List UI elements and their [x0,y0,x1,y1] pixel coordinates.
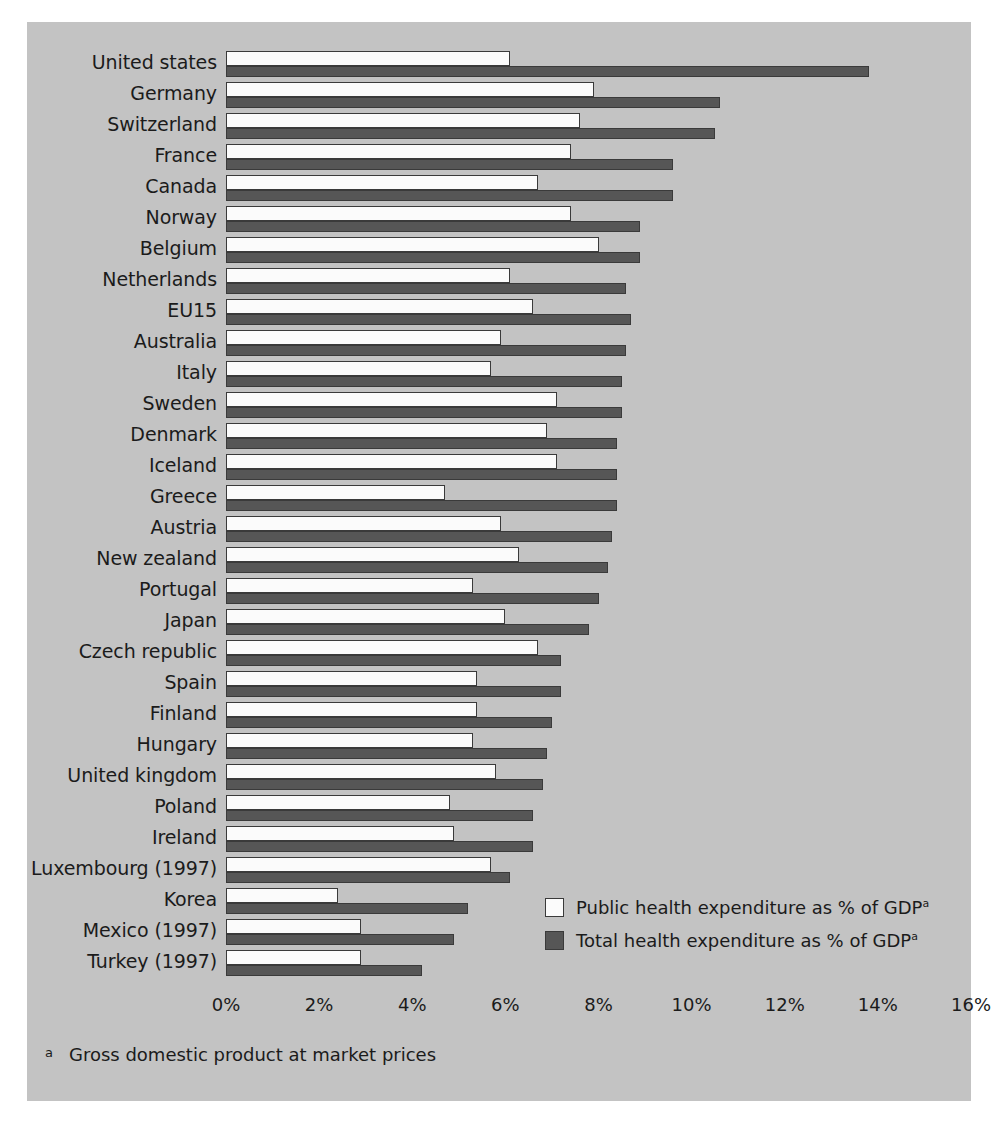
bar-group [226,762,971,793]
bar-row: Canada [27,173,971,204]
figure: United statesGermanySwitzerlandFranceCan… [0,0,992,1132]
bar-group [226,452,971,483]
bar-public-health [226,764,496,779]
bar-group [226,421,971,452]
bar-public-health [226,175,538,190]
category-label: Australia [27,330,217,352]
bar-row: Switzerland [27,111,971,142]
bar-total-health [226,934,454,945]
bar-total-health [226,314,631,325]
bar-row: Denmark [27,421,971,452]
bar-public-health [226,299,533,314]
bar-public-health [226,423,547,438]
category-label: United states [27,51,217,73]
x-axis: 0%2%4%6%8%10%12%14%16% [226,994,971,1024]
bar-group [226,824,971,855]
category-label: Sweden [27,392,217,414]
bar-group [226,545,971,576]
bar-group [226,390,971,421]
bar-public-health [226,51,510,66]
category-label: Luxembourg (1997) [27,857,217,879]
bar-public-health [226,268,510,283]
bar-group [226,793,971,824]
bar-public-health [226,516,501,531]
bar-row: Austria [27,514,971,545]
x-tick-label: 8% [584,994,613,1015]
bar-row: Poland [27,793,971,824]
footnote-text: Gross domestic product at market prices [69,1044,436,1065]
bar-total-health [226,500,617,511]
bar-total-health [226,686,561,697]
bar-group [226,514,971,545]
bar-group [226,638,971,669]
category-label: Czech republic [27,640,217,662]
bar-group [226,235,971,266]
x-tick-label: 6% [491,994,520,1015]
bar-row: Portugal [27,576,971,607]
category-label: France [27,144,217,166]
footnote-marker: a [45,1044,53,1059]
bar-row: United states [27,49,971,80]
bar-public-health [226,702,477,717]
category-label: Poland [27,795,217,817]
bar-public-health [226,919,361,934]
bar-row: New zealand [27,545,971,576]
bar-group [226,328,971,359]
chart-panel: United statesGermanySwitzerlandFranceCan… [27,22,971,1101]
bar-row: France [27,142,971,173]
bar-public-health [226,361,491,376]
bar-row: EU15 [27,297,971,328]
bar-total-health [226,593,599,604]
bar-total-health [226,252,640,263]
bar-total-health [226,190,673,201]
bar-row: Greece [27,483,971,514]
bar-group [226,49,971,80]
legend-item-public: Public health expenditure as % of GDPa [545,891,965,924]
bar-total-health [226,562,608,573]
footnote: a Gross domestic product at market price… [45,1044,436,1065]
bar-public-health [226,826,454,841]
bar-group [226,142,971,173]
category-label: Germany [27,82,217,104]
bar-total-health [226,903,468,914]
bar-public-health [226,547,519,562]
bar-total-health [226,717,552,728]
category-label: Ireland [27,826,217,848]
category-label: Mexico (1997) [27,919,217,941]
category-label: Norway [27,206,217,228]
category-label: Japan [27,609,217,631]
bar-public-health [226,144,571,159]
bar-row: Japan [27,607,971,638]
bar-public-health [226,609,505,624]
bar-public-health [226,454,557,469]
legend-label-total: Total health expenditure as % of GDPa [576,930,918,951]
bar-public-health [226,330,501,345]
bar-group [226,855,971,886]
bar-public-health [226,950,361,965]
bar-total-health [226,469,617,480]
bar-row: Luxembourg (1997) [27,855,971,886]
bar-total-health [226,748,547,759]
bar-row: Norway [27,204,971,235]
bar-public-health [226,237,599,252]
bar-public-health [226,795,450,810]
bar-public-health [226,888,338,903]
x-tick-label: 4% [398,994,427,1015]
bar-total-health [226,66,869,77]
bar-row: Netherlands [27,266,971,297]
bar-total-health [226,779,543,790]
bar-row: Hungary [27,731,971,762]
bar-row: Sweden [27,390,971,421]
x-tick-label: 0% [212,994,241,1015]
category-label: Korea [27,888,217,910]
x-tick-label: 2% [305,994,334,1015]
chart-legend: Public health expenditure as % of GDPa T… [545,891,965,957]
category-label: Spain [27,671,217,693]
bar-total-health [226,872,510,883]
category-label: Italy [27,361,217,383]
bar-group [226,266,971,297]
legend-label-public: Public health expenditure as % of GDPa [576,897,929,918]
category-label: Portugal [27,578,217,600]
bar-public-health [226,671,477,686]
category-label: Belgium [27,237,217,259]
